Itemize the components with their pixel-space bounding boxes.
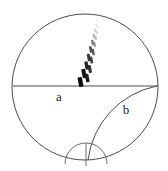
lens-arc-curve	[88, 86, 157, 160]
dash-mark	[87, 65, 92, 73]
label-region-a: a	[56, 89, 62, 104]
label-region-b: b	[123, 102, 130, 117]
dash-mark	[93, 42, 96, 48]
dash-mark	[85, 74, 90, 83]
dash-mark	[91, 49, 95, 56]
figure-container: a b	[0, 0, 168, 171]
dash-mark	[97, 25, 99, 28]
dash-mark	[97, 21, 99, 24]
outer-circle	[12, 14, 158, 160]
dash-mark	[94, 36, 97, 41]
dash-mark	[98, 17, 100, 19]
geometric-diagram: a b	[0, 0, 168, 171]
dash-mark	[96, 30, 98, 34]
dashed-trajectory-group	[77, 15, 99, 87]
